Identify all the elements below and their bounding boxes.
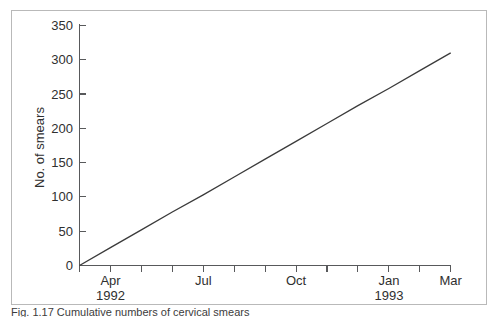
x-axis-labels: Apr 1992 Jul Oct Jan 1993 Mar xyxy=(96,273,463,303)
y-tick-label-4: 200 xyxy=(51,121,73,136)
figure-root: No. of smears 0 50 100 150 200 250 300 3… xyxy=(0,0,498,317)
figure-caption: Fig. 1.17 Cumulative numbers of cervical… xyxy=(11,307,487,317)
y-tick-label-6: 300 xyxy=(51,52,73,67)
x-label-mar: Mar xyxy=(440,273,463,288)
y-tick-label-1: 50 xyxy=(59,224,73,239)
data-series-line xyxy=(80,53,451,266)
x-label-jan: Jan xyxy=(378,273,399,288)
y-tick-label-7: 350 xyxy=(51,18,73,33)
y-tick-label-2: 100 xyxy=(51,189,73,204)
y-tick-label-5: 250 xyxy=(51,87,73,102)
x-label-jul: Jul xyxy=(195,273,212,288)
y-tick-label-3: 150 xyxy=(51,155,73,170)
x-label-year-1993: 1993 xyxy=(374,288,403,303)
y-axis-ticks: 0 50 100 150 200 250 300 350 xyxy=(51,18,85,273)
y-axis-label: No. of smears xyxy=(32,107,47,188)
x-axis-ticks xyxy=(80,266,451,273)
x-label-year-1992: 1992 xyxy=(96,288,125,303)
line-chart: No. of smears 0 50 100 150 200 250 300 3… xyxy=(0,0,498,317)
x-label-oct: Oct xyxy=(286,273,307,288)
figure-caption-text: Fig. 1.17 Cumulative numbers of cervical… xyxy=(11,307,487,317)
x-label-apr: Apr xyxy=(100,273,121,288)
y-tick-label-0: 0 xyxy=(66,258,73,273)
